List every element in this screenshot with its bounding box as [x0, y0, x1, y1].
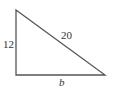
right-triangle	[16, 10, 105, 75]
hypotenuse-label: 20	[61, 29, 73, 41]
triangle-diagram: 12 20 b	[0, 0, 115, 90]
base-label: b	[59, 76, 65, 88]
left-side-label: 12	[3, 38, 14, 50]
